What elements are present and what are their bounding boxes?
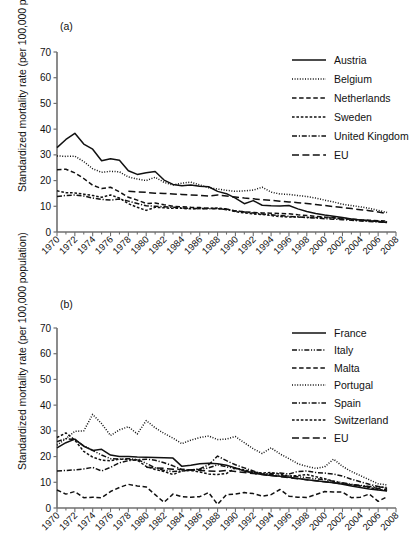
legend-label: Austria (334, 55, 367, 65)
svg-text:2000: 2000 (307, 234, 330, 257)
legend-swatch-icon (291, 328, 327, 338)
svg-text:1980: 1980 (128, 510, 151, 533)
svg-text:40: 40 (40, 124, 52, 135)
svg-text:1976: 1976 (92, 234, 115, 257)
svg-text:1972: 1972 (57, 234, 80, 257)
legend-label: Malta (334, 363, 360, 373)
legend-label: Portugal (334, 380, 373, 390)
legend-item-italy[interactable]: Italy (291, 342, 388, 360)
svg-text:1998: 1998 (289, 234, 312, 257)
legend-item-sweden[interactable]: Sweden (291, 107, 409, 126)
svg-text:1990: 1990 (217, 234, 240, 257)
svg-text:1982: 1982 (146, 510, 169, 533)
chart-panel-a: Standardized mortality rate (per 100,000… (0, 0, 409, 280)
legend-label: Netherlands (334, 93, 391, 103)
legend-label: Spain (334, 398, 361, 408)
legend-item-united-kingdom[interactable]: United Kingdom (291, 126, 409, 145)
svg-text:20: 20 (40, 175, 52, 186)
legend-swatch-icon (291, 380, 327, 390)
legend-item-austria[interactable]: Austria (291, 50, 409, 69)
svg-text:2002: 2002 (324, 234, 347, 257)
series-line-belgium (57, 156, 387, 213)
svg-text:1984: 1984 (164, 234, 187, 257)
svg-text:1978: 1978 (110, 510, 133, 533)
legend-swatch-icon (291, 363, 327, 373)
svg-text:1978: 1978 (110, 234, 133, 257)
legend-label: EU (334, 433, 349, 443)
svg-text:2006: 2006 (360, 234, 383, 257)
svg-text:20: 20 (40, 451, 52, 462)
legend-label: Italy (334, 345, 353, 355)
svg-text:2000: 2000 (307, 510, 330, 533)
svg-text:1986: 1986 (182, 234, 205, 257)
legend-a: AustriaBelgiumNetherlandsSwedenUnited Ki… (291, 50, 409, 164)
legend-label: Sweden (334, 112, 372, 122)
svg-text:1994: 1994 (253, 510, 276, 533)
svg-text:2004: 2004 (342, 234, 365, 257)
legend-item-eu[interactable]: EU (291, 145, 409, 164)
svg-text:70: 70 (40, 323, 52, 334)
svg-text:1990: 1990 (217, 510, 240, 533)
legend-label: Switzerland (334, 415, 388, 425)
series-line-malta (57, 484, 387, 504)
legend-item-portugal[interactable]: Portugal (291, 377, 388, 395)
svg-text:1998: 1998 (289, 510, 312, 533)
legend-item-belgium[interactable]: Belgium (291, 69, 409, 88)
legend-swatch-icon (291, 131, 327, 141)
legend-item-switzerland[interactable]: Switzerland (291, 412, 388, 430)
svg-text:2004: 2004 (342, 510, 365, 533)
svg-text:1980: 1980 (128, 234, 151, 257)
svg-text:1996: 1996 (271, 234, 294, 257)
svg-text:30: 30 (40, 149, 52, 160)
legend-label: France (334, 328, 367, 338)
svg-text:60: 60 (40, 348, 52, 359)
figure-container: Standardized mortality rate (per 100,000… (0, 0, 409, 557)
svg-text:10: 10 (40, 201, 52, 212)
svg-text:60: 60 (40, 72, 52, 83)
svg-text:1984: 1984 (164, 510, 187, 533)
svg-text:1974: 1974 (75, 234, 98, 257)
svg-text:1992: 1992 (235, 234, 258, 257)
legend-swatch-icon (291, 415, 327, 425)
legend-item-netherlands[interactable]: Netherlands (291, 88, 409, 107)
legend-item-malta[interactable]: Malta (291, 359, 388, 377)
svg-text:50: 50 (40, 98, 52, 109)
svg-text:1974: 1974 (75, 510, 98, 533)
legend-swatch-icon (291, 112, 327, 122)
legend-swatch-icon (291, 433, 327, 443)
svg-text:1972: 1972 (57, 510, 80, 533)
legend-swatch-icon (291, 345, 327, 355)
legend-b: FranceItalyMaltaPortugalSpainSwitzerland… (291, 324, 388, 447)
legend-item-eu[interactable]: EU (291, 429, 388, 447)
svg-text:2008: 2008 (378, 510, 401, 533)
svg-text:1986: 1986 (182, 510, 205, 533)
svg-text:1970: 1970 (39, 510, 62, 533)
svg-text:30: 30 (40, 425, 52, 436)
legend-swatch-icon (291, 55, 327, 65)
legend-swatch-icon (291, 74, 327, 84)
svg-text:1988: 1988 (199, 234, 222, 257)
legend-swatch-icon (291, 150, 327, 160)
svg-text:1976: 1976 (92, 510, 115, 533)
legend-label: Belgium (334, 74, 372, 84)
svg-text:1992: 1992 (235, 510, 258, 533)
legend-item-france[interactable]: France (291, 324, 388, 342)
legend-label: United Kingdom (334, 131, 409, 141)
legend-item-spain[interactable]: Spain (291, 394, 388, 412)
svg-text:2002: 2002 (324, 510, 347, 533)
svg-text:40: 40 (40, 400, 52, 411)
svg-text:70: 70 (40, 47, 52, 58)
svg-text:50: 50 (40, 374, 52, 385)
svg-text:10: 10 (40, 477, 52, 488)
svg-text:1994: 1994 (253, 234, 276, 257)
svg-text:2006: 2006 (360, 510, 383, 533)
svg-text:1988: 1988 (199, 510, 222, 533)
svg-text:1996: 1996 (271, 510, 294, 533)
svg-text:1970: 1970 (39, 234, 62, 257)
svg-text:1982: 1982 (146, 234, 169, 257)
legend-swatch-icon (291, 398, 327, 408)
chart-panel-b: Standardized mortality rate (per 100,000… (0, 280, 409, 557)
legend-label: EU (334, 150, 349, 160)
svg-text:2008: 2008 (378, 234, 401, 257)
legend-swatch-icon (291, 93, 327, 103)
